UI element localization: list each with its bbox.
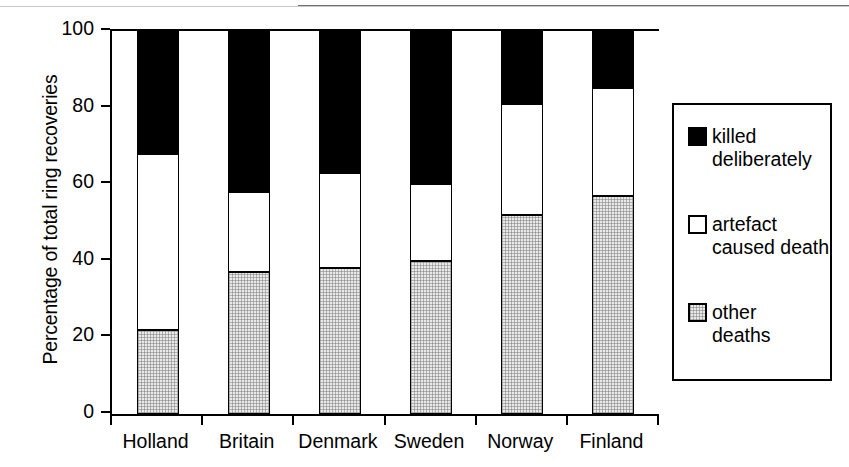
bar-segment	[319, 268, 361, 414]
x-axis-label-denmark: Denmark	[292, 430, 383, 453]
x-axis-label-holland: Holland	[110, 430, 201, 453]
bar-segment	[501, 104, 543, 215]
bar-segment	[592, 31, 634, 88]
y-tick-label: 0	[46, 402, 94, 422]
bar-segment	[319, 31, 361, 173]
y-tick-label: 20	[46, 325, 94, 345]
x-tick-mark	[657, 414, 659, 425]
bar-segment	[137, 154, 179, 330]
bar-group	[137, 31, 179, 414]
y-tick-mark	[101, 258, 110, 260]
bar-segment	[592, 88, 634, 195]
y-tick-mark	[101, 411, 110, 413]
x-tick-mark	[384, 414, 386, 425]
bar-group	[592, 31, 634, 414]
bar-segment	[501, 31, 543, 104]
bar-group	[228, 31, 270, 414]
bar-segment	[137, 31, 179, 154]
x-tick-mark	[201, 414, 203, 425]
x-axis-label-norway: Norway	[475, 430, 566, 453]
y-tick-label: 80	[46, 96, 94, 116]
x-tick-mark	[292, 414, 294, 425]
white-square-icon	[688, 215, 707, 234]
bar-series-container	[112, 31, 659, 414]
x-axis-label-britain: Britain	[201, 430, 292, 453]
legend-item: other deaths	[688, 301, 771, 347]
plot-area	[110, 29, 659, 416]
legend-item-label: other deaths	[712, 301, 771, 347]
bar-group	[410, 31, 452, 414]
y-tick-label: 40	[46, 249, 94, 269]
y-axis-tick-labels: 020406080100	[46, 0, 94, 467]
bar-segment	[319, 173, 361, 269]
bar-segment	[410, 261, 452, 414]
y-tick-mark	[101, 334, 110, 336]
x-axis-label-sweden: Sweden	[384, 430, 475, 453]
y-tick-label: 100	[46, 19, 94, 39]
bar-segment	[410, 31, 452, 184]
x-tick-mark	[566, 414, 568, 425]
y-tick-mark	[101, 28, 110, 30]
legend-item: killed deliberately	[688, 125, 812, 171]
y-tick-mark	[101, 181, 110, 183]
bar-segment	[592, 196, 634, 414]
chart-legend: killed deliberatelyartefact caused death…	[672, 103, 832, 381]
legend-item-label: killed deliberately	[712, 125, 812, 171]
bar-segment	[228, 192, 270, 272]
bar-segment	[137, 330, 179, 414]
bar-segment	[228, 272, 270, 414]
x-tick-mark	[110, 414, 112, 425]
y-tick-label: 60	[46, 172, 94, 192]
x-axis-label-finland: Finland	[566, 430, 657, 453]
x-tick-mark	[475, 414, 477, 425]
bar-group	[319, 31, 361, 414]
bar-group	[501, 31, 543, 414]
y-tick-mark	[101, 105, 110, 107]
stippled-square-icon	[688, 303, 707, 322]
black-square-icon	[688, 127, 707, 146]
bar-segment	[410, 184, 452, 261]
legend-item-label: artefact caused death	[712, 213, 829, 259]
legend-item: artefact caused death	[688, 213, 829, 259]
x-axis-tick-labels: HollandBritainDenmarkSwedenNorwayFinland	[110, 430, 657, 460]
x-axis-tick-marks	[110, 414, 659, 425]
stacked-bar-chart: Percentage of total ring recoveries 0204…	[0, 0, 849, 467]
bar-segment	[228, 31, 270, 192]
bar-segment	[501, 215, 543, 414]
